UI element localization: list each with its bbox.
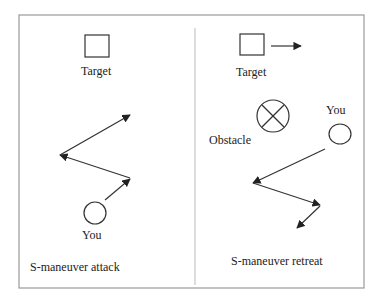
path-arrow-3 bbox=[60, 115, 130, 155]
caption-retreat: S-maneuver retreat bbox=[231, 254, 323, 269]
target-label: Target bbox=[236, 65, 266, 80]
you-circle-icon bbox=[329, 124, 351, 144]
outer-frame bbox=[19, 15, 364, 288]
obstacle-label: Obstacle bbox=[209, 133, 251, 148]
diagram-canvas bbox=[0, 0, 383, 301]
path-arrow-2 bbox=[253, 183, 320, 205]
target-label: Target bbox=[81, 64, 111, 79]
you-label: You bbox=[82, 228, 101, 243]
obstacle-icon bbox=[257, 100, 289, 132]
path-arrow-3 bbox=[297, 206, 320, 228]
you-label: You bbox=[326, 103, 345, 118]
caption-attack: S-maneuver attack bbox=[30, 260, 120, 275]
path-arrow-2 bbox=[60, 155, 130, 178]
target-square-icon bbox=[240, 34, 264, 55]
path-arrow-1 bbox=[253, 149, 325, 183]
path-arrow-1 bbox=[105, 179, 130, 200]
you-circle-icon bbox=[84, 202, 106, 224]
target-square-icon bbox=[85, 35, 109, 57]
